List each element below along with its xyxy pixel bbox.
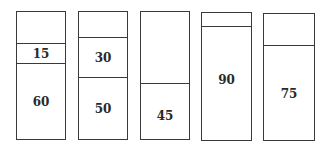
stacked-box-1: 15 60: [16, 11, 66, 140]
segment-top: 15: [17, 43, 65, 63]
segment-label: 75: [281, 87, 298, 101]
segment-label: 50: [95, 102, 112, 116]
stacked-box-2: 30 50: [78, 11, 128, 140]
segment-bottom: 75: [264, 45, 314, 140]
segment-label: 60: [33, 95, 50, 109]
segment-bottom: 50: [79, 77, 127, 139]
segment-label: 30: [95, 51, 112, 65]
segment-bottom: 60: [17, 63, 65, 139]
stacked-box-5: 75: [263, 13, 315, 141]
stacked-box-3: 45: [140, 11, 190, 140]
segment-bottom: 90: [202, 26, 251, 140]
segment-top: 30: [79, 37, 127, 77]
segment-label: 15: [33, 47, 50, 61]
stacked-box-4: 90: [201, 12, 252, 141]
segment-label: 45: [157, 109, 174, 123]
segment-label: 90: [218, 73, 235, 87]
segment-bottom: 45: [141, 83, 189, 139]
